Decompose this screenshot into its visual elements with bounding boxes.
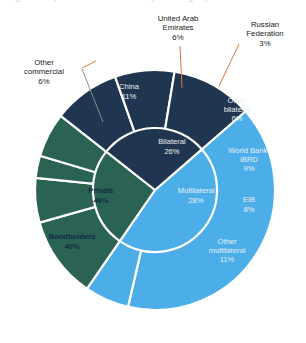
callout-line: United Arab [140,14,216,23]
leader-line-other-commercial [82,61,96,68]
callout-line: Federation [232,29,298,38]
callout-line: Emirates [140,23,216,32]
callout-other-commercial: Othercommercial6% [8,58,80,86]
leader-line-russian-federation [219,44,239,86]
callout-russian-federation: RussianFederation3% [232,20,298,48]
sunburst-chart: Figure: Composition of external debt by … [0,0,306,343]
callout-line: commercial [8,67,80,76]
inner-ring-group [93,128,217,252]
callout-line: 6% [140,33,216,42]
callout-line: 3% [232,39,298,48]
callout-line: Other [8,58,80,67]
callout-line: Russian [232,20,298,29]
callout-united-arab-emirates: United ArabEmirates6% [140,14,216,42]
callout-line: 6% [8,77,80,86]
sunburst-svg: Bondholders40%China11%Otherbilateral6%Wo… [0,0,306,343]
